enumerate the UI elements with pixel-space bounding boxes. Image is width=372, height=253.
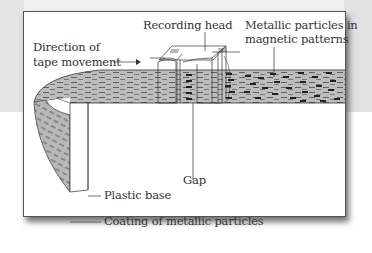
label-coating: Coating of metallic particles	[104, 215, 264, 228]
label-particles-line1: Metallic particles in	[245, 19, 358, 32]
label-direction-line2: tape movement	[33, 56, 121, 69]
label-recording-head: Recording head	[143, 19, 232, 32]
direction-arrow-icon	[136, 59, 141, 65]
label-direction-line1: Direction of	[33, 41, 100, 54]
label-particles-line2: magnetic patterns	[245, 33, 348, 46]
label-gap: Gap	[183, 174, 206, 187]
label-plastic-base: Plastic base	[104, 189, 171, 202]
